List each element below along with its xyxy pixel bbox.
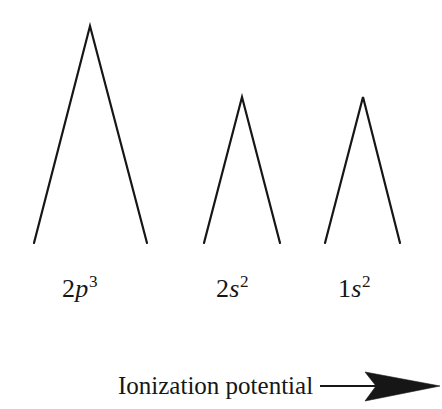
peak-label-2p: 2p3 (62, 276, 98, 302)
peak-2s-trace (204, 97, 280, 243)
peak-label-2p-shell: 2 (62, 274, 75, 303)
axis-caption-ionization-potential: Ionization potential (118, 373, 313, 398)
peak-2s-polyline (204, 97, 280, 243)
peak-label-1s-electrons: 2 (362, 272, 371, 291)
peak-2p-polyline (34, 26, 147, 243)
peak-2p-trace (34, 26, 147, 243)
peak-1s-trace (325, 97, 400, 243)
arrow-head (365, 372, 440, 401)
right-arrow-icon (318, 368, 442, 404)
peak-label-1s: 1s2 (338, 276, 371, 302)
photoelectron-spectrum-figure: 2p3 2s2 1s2 Ionization potential (0, 0, 442, 409)
peak-label-2s-electrons: 2 (240, 272, 249, 291)
peak-label-1s-subshell: s (351, 274, 361, 303)
peak-label-2s-subshell: s (229, 274, 239, 303)
peak-label-2p-electrons: 3 (89, 272, 98, 291)
peak-1s-polyline (325, 97, 400, 243)
peaks-plot-area (0, 0, 442, 409)
peak-label-2s-shell: 2 (216, 274, 229, 303)
peak-label-2p-subshell: p (75, 274, 88, 303)
peak-label-2s: 2s2 (216, 276, 249, 302)
peak-label-1s-shell: 1 (338, 274, 351, 303)
